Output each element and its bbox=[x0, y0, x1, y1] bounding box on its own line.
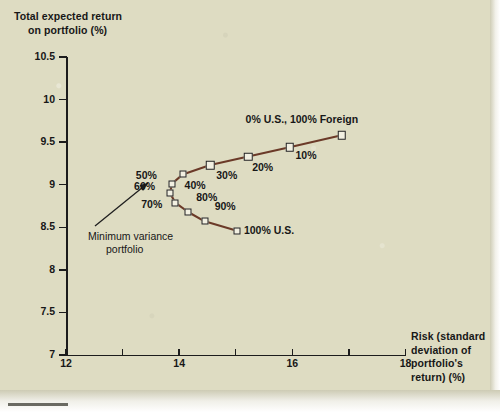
page-corner-bar bbox=[8, 403, 68, 406]
x-tick-label: 18 bbox=[400, 357, 412, 369]
y-tick-label: 7 bbox=[49, 348, 55, 360]
y-tick-label: 9.5 bbox=[40, 135, 55, 147]
label-60: 60% bbox=[134, 180, 155, 192]
y-tick-label: 10.5 bbox=[35, 50, 55, 62]
y-tick bbox=[59, 141, 67, 142]
y-tick bbox=[59, 184, 67, 185]
data-point-marker bbox=[167, 190, 174, 197]
x-axis-title-line2: deviation of bbox=[411, 344, 471, 356]
y-tick bbox=[59, 269, 67, 270]
y-tick-label: 9 bbox=[49, 178, 55, 190]
label-40: 40% bbox=[185, 179, 206, 191]
data-point-marker bbox=[168, 180, 175, 187]
y-tick-label: 10 bbox=[43, 93, 55, 105]
data-point-marker bbox=[172, 199, 179, 206]
data-point-marker bbox=[233, 227, 240, 234]
x-axis-title: Risk (standard deviation of portfolio's … bbox=[411, 330, 497, 384]
label-80: 80% bbox=[196, 191, 217, 203]
min-variance-line1: Minimum variance bbox=[88, 230, 173, 242]
min-variance-annotation: Minimum variance portfolio bbox=[88, 230, 173, 256]
y-tick-label: 8 bbox=[49, 263, 55, 275]
y-axis-title-line1: Total expected return bbox=[14, 10, 122, 22]
x-tick bbox=[292, 349, 293, 356]
data-point-marker bbox=[244, 152, 253, 161]
data-point-marker bbox=[206, 161, 215, 170]
x-tick bbox=[348, 349, 349, 356]
x-tick bbox=[178, 349, 179, 356]
y-tick bbox=[59, 99, 67, 100]
y-axis-title-line2: on portfolio (%) bbox=[28, 23, 122, 37]
label-100-us: 100% U.S. bbox=[244, 224, 294, 236]
label-10: 10% bbox=[296, 149, 317, 161]
y-axis-title: Total expected return on portfolio (%) bbox=[14, 9, 122, 37]
min-variance-line2: portfolio bbox=[106, 243, 143, 256]
label-90: 90% bbox=[215, 200, 236, 212]
label-30: 30% bbox=[216, 169, 237, 181]
y-tick bbox=[59, 312, 67, 313]
data-point-marker bbox=[337, 131, 346, 140]
x-axis-title-line3: portfolio's bbox=[411, 357, 463, 369]
x-tick-label: 14 bbox=[173, 357, 185, 369]
label-70: 70% bbox=[141, 198, 162, 210]
x-tick-label: 16 bbox=[286, 357, 298, 369]
data-point-marker bbox=[201, 218, 208, 225]
data-point-marker bbox=[185, 208, 192, 215]
x-axis-title-line4: return) (%) bbox=[411, 371, 465, 383]
x-tick-label: 12 bbox=[60, 357, 72, 369]
y-tick-label: 7.5 bbox=[40, 305, 55, 317]
data-point-marker bbox=[285, 143, 294, 152]
y-tick bbox=[59, 56, 67, 57]
y-tick-label: 8.5 bbox=[40, 220, 55, 232]
x-tick bbox=[122, 349, 123, 356]
label-50: 50% bbox=[136, 169, 157, 181]
x-tick bbox=[405, 349, 406, 356]
y-tick bbox=[59, 227, 67, 228]
label-20: 20% bbox=[252, 161, 273, 173]
page-edge-bottom bbox=[0, 390, 500, 412]
data-point-marker bbox=[179, 171, 186, 178]
x-axis-title-line1: Risk (standard bbox=[411, 330, 485, 342]
x-tick bbox=[65, 349, 66, 356]
x-tick bbox=[235, 349, 236, 356]
label-0-us-100-foreign: 0% U.S., 100% Foreign bbox=[246, 113, 359, 125]
chart-figure: Total expected return on portfolio (%) R… bbox=[0, 0, 500, 412]
